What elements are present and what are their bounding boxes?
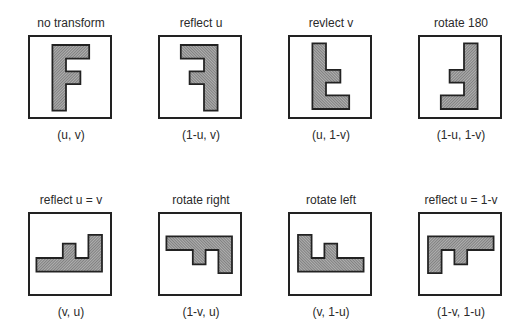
panel-frame <box>158 35 242 119</box>
panel-coordinates: (v, 1-u) <box>276 305 386 319</box>
f-glyph-icon <box>160 214 240 294</box>
panel-coordinates: (v, u) <box>16 305 126 319</box>
panel-rotate-right: rotate right (1-v, u) <box>146 193 256 333</box>
panel-title: no transform <box>16 16 126 30</box>
panel-reflect-u-eq-v: reflect u = v (v, u) <box>16 193 126 333</box>
panel-reflect-u: reflect u (1-u, v) <box>146 16 256 166</box>
panel-frame <box>28 35 112 119</box>
panel-title: rotate left <box>276 193 386 207</box>
panel-frame <box>28 212 112 296</box>
panel-frame <box>288 212 372 296</box>
panel-frame <box>158 212 242 296</box>
f-glyph-icon <box>290 214 370 294</box>
panel-reflect-u-eq-1-minus-v: reflect u = 1-v (1-v, 1-u) <box>406 193 516 333</box>
panel-rotate-left: rotate left (v, 1-u) <box>276 193 386 333</box>
panel-title: rotate right <box>146 193 256 207</box>
panel-coordinates: (1-v, u) <box>146 305 256 319</box>
panel-coordinates: (1-u, v) <box>146 128 256 142</box>
f-glyph-icon <box>30 214 110 294</box>
panel-title: revlect v <box>276 16 386 30</box>
panel-title: rotate 180 <box>406 16 516 30</box>
panel-frame <box>418 212 502 296</box>
f-glyph-icon <box>290 37 370 117</box>
f-glyph-icon <box>420 37 500 117</box>
f-glyph-icon <box>30 37 110 117</box>
panel-frame <box>418 35 502 119</box>
panel-coordinates: (u, 1-v) <box>276 128 386 142</box>
panel-reflect-v: revlect v (u, 1-v) <box>276 16 386 166</box>
panel-no-transform: no transform (u, v) <box>16 16 126 166</box>
panel-coordinates: (1-v, 1-u) <box>406 305 516 319</box>
f-glyph-icon <box>160 37 240 117</box>
panel-title: reflect u = v <box>16 193 126 207</box>
f-glyph-icon <box>420 214 500 294</box>
panel-rotate-180: rotate 180 (1-u, 1-v) <box>406 16 516 166</box>
panel-coordinates: (1-u, 1-v) <box>406 128 516 142</box>
panel-title: reflect u = 1-v <box>406 193 516 207</box>
panel-coordinates: (u, v) <box>16 128 126 142</box>
panel-title: reflect u <box>146 16 256 30</box>
panel-frame <box>288 35 372 119</box>
